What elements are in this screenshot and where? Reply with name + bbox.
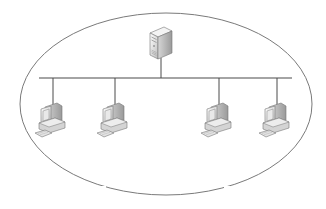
desktop-computer-icon <box>97 103 127 137</box>
server-tower-icon <box>150 27 172 59</box>
desktop-computer-icon <box>201 103 231 137</box>
desktop-computer-icon <box>259 103 289 137</box>
desktop-computer-icon <box>35 103 65 137</box>
bus-topology-diagram <box>0 0 326 209</box>
